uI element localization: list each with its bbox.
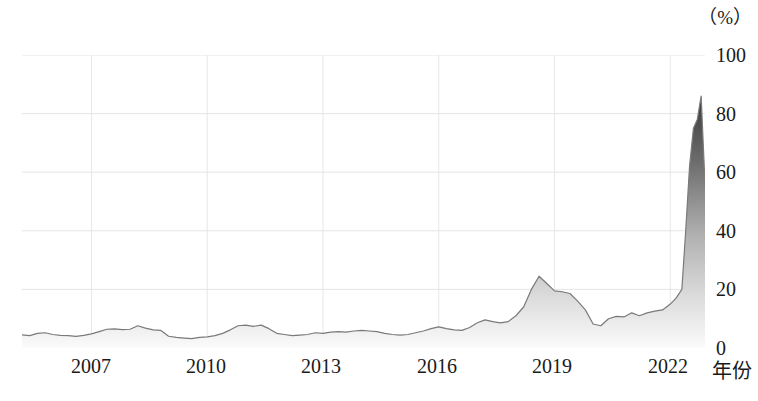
y-tick-40: 40 (716, 219, 736, 242)
series-line (22, 96, 705, 339)
chart-figure: （%） 100 80 60 40 20 0 2007 2010 2013 201… (0, 0, 758, 401)
y-tick-60: 60 (716, 161, 736, 184)
plot-area (22, 55, 705, 348)
y-axis-unit-label: （%） (698, 2, 752, 29)
x-tick-2016: 2016 (417, 355, 457, 378)
x-tick-2022: 2022 (648, 355, 688, 378)
x-tick-2007: 2007 (71, 355, 111, 378)
y-tick-20: 20 (716, 278, 736, 301)
x-tick-2010: 2010 (186, 355, 226, 378)
y-tick-100: 100 (716, 44, 746, 67)
x-axis-title: 年份 (712, 355, 752, 384)
x-tick-2013: 2013 (301, 355, 341, 378)
x-tick-2019: 2019 (532, 355, 572, 378)
area-fill (22, 96, 705, 348)
grid-lines (22, 55, 705, 348)
y-tick-80: 80 (716, 102, 736, 125)
chart-svg (22, 55, 705, 348)
